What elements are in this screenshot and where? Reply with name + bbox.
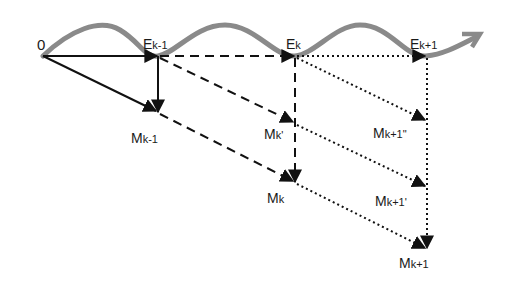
label-Ek-sub: k <box>295 39 301 51</box>
label-Mk+1-dprime-main: M <box>373 125 385 141</box>
label-Ek-1-main: E <box>143 36 152 52</box>
label-Mk-main: M <box>267 190 279 206</box>
label-Ek+1-main: E <box>410 36 419 52</box>
edge-O-Mk-1 <box>43 56 156 111</box>
label-Mk-sub: k <box>279 193 285 205</box>
label-Ek+1: Ek+1 <box>410 37 437 51</box>
label-origin: 0 <box>37 37 45 52</box>
label-Mk+1-sub: k+1 <box>411 258 429 270</box>
label-Mk-prime: Mk' <box>264 127 283 141</box>
label-Mk+1-prime: Mk+1' <box>375 194 407 208</box>
label-Mk+1-prime-main: M <box>375 193 387 209</box>
label-Mk-1-sub: k-1 <box>143 133 158 145</box>
label-Ek-1-sub: k-1 <box>152 39 167 51</box>
label-Mk+1-main: M <box>399 255 411 271</box>
label-Ek-main: E <box>286 36 295 52</box>
label-Mk-1-main: M <box>131 130 143 146</box>
label-Mk+1: Mk+1 <box>399 256 429 270</box>
edge-Ek-Mk+1-dprime <box>297 58 425 120</box>
label-Mk+1-dprime-sub: k+1" <box>385 128 407 140</box>
edge-Ek-1-Mk-prime <box>160 58 293 122</box>
label-Ek-1: Ek-1 <box>143 37 168 51</box>
label-Mk+1-prime-sub: k+1' <box>387 196 407 208</box>
label-Ek: Ek <box>286 37 301 51</box>
edge-Mk-1-Mk <box>160 114 293 181</box>
label-Mk: Mk <box>267 191 284 205</box>
label-Mk+1-dprime: Mk+1" <box>373 126 407 140</box>
label-Mk-1: Mk-1 <box>131 131 158 145</box>
label-Mk-prime-main: M <box>264 126 276 142</box>
label-Ek+1-sub: k+1 <box>419 39 437 51</box>
label-origin-main: 0 <box>37 36 45 53</box>
label-Mk-prime-sub: k' <box>276 129 284 141</box>
